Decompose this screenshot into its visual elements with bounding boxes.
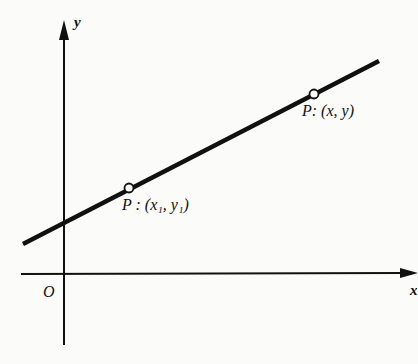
straight-line bbox=[23, 61, 379, 244]
x-axis-label: x bbox=[410, 282, 418, 299]
y-axis-label: y bbox=[74, 14, 81, 31]
diagram-graphics bbox=[0, 0, 418, 364]
x-axis bbox=[21, 273, 402, 274]
point-p1-marker bbox=[125, 184, 134, 193]
point-p1-label: P : (x₁, y₁) bbox=[122, 196, 189, 214]
origin-label: O bbox=[43, 283, 55, 301]
coordinate-diagram: y x O P : (x₁, y₁) P: (x, y) bbox=[0, 0, 418, 364]
point-p-label: P: (x, y) bbox=[302, 102, 354, 120]
y-axis-arrow-icon bbox=[59, 20, 69, 40]
x-axis-arrow-icon bbox=[400, 268, 418, 278]
point-p-marker bbox=[310, 90, 319, 99]
